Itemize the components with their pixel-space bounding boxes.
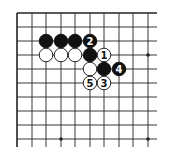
black-stone-move-4: 4 xyxy=(112,62,126,76)
white-stone xyxy=(39,48,53,62)
black-stone xyxy=(54,34,68,48)
star-point xyxy=(59,137,63,141)
black-stone xyxy=(83,48,97,62)
star-point xyxy=(146,137,150,141)
white-stone xyxy=(68,48,82,62)
white-stone-move-3: 3 xyxy=(97,76,111,90)
move-number: 5 xyxy=(87,78,94,89)
white-stone-move-1: 1 xyxy=(97,48,111,62)
white-stone xyxy=(83,62,97,76)
move-number: 3 xyxy=(101,78,108,89)
move-number: 1 xyxy=(101,50,108,61)
move-number: 2 xyxy=(87,36,94,47)
go-board: 21453 xyxy=(0,0,169,162)
stones: 21453 xyxy=(39,34,126,90)
move-number: 4 xyxy=(116,64,123,75)
black-stone xyxy=(68,34,82,48)
star-point xyxy=(146,53,150,57)
white-stone-move-5: 5 xyxy=(83,76,97,90)
black-stone xyxy=(97,62,111,76)
black-stone-move-2: 2 xyxy=(83,34,97,48)
white-stone xyxy=(54,48,68,62)
black-stone xyxy=(39,34,53,48)
